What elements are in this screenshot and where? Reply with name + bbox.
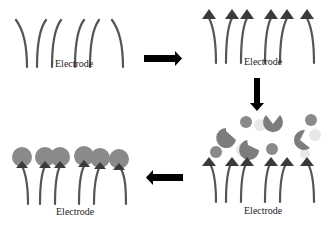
analytes [210, 114, 321, 161]
arrow-right-icon [144, 51, 182, 66]
electrode-label-1: Electrode [55, 58, 93, 69]
bound-probes [12, 146, 129, 204]
arrow-left-icon [146, 170, 183, 185]
electrode-label-3: Electrode [244, 205, 282, 216]
tagged-probes [202, 9, 314, 63]
arrow-down-icon [250, 78, 264, 111]
electrode-label-4: Electrode [56, 206, 94, 217]
electrode-label-2: Electrode [244, 56, 282, 67]
exposed-probes [202, 157, 314, 202]
diagram-canvas [0, 0, 330, 227]
